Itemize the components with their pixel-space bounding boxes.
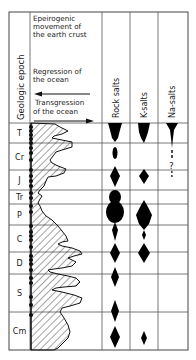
axis-dot bbox=[29, 276, 33, 280]
axis-dot bbox=[29, 268, 33, 272]
axis-dot bbox=[29, 196, 33, 200]
axis-dot bbox=[29, 141, 33, 145]
axis-dot bbox=[29, 204, 33, 208]
column-header-k-salts: K-salts bbox=[140, 92, 149, 118]
epoch-label-cm: Cm bbox=[13, 327, 27, 336]
axis-dot bbox=[29, 133, 33, 137]
axis-dot bbox=[29, 245, 33, 249]
epoch-label-tr: Tr bbox=[15, 193, 24, 202]
axis-dot bbox=[29, 168, 33, 172]
svg-text:Transgression: Transgression bbox=[34, 98, 84, 107]
svg-text:of the ocean: of the ocean bbox=[33, 107, 78, 116]
epoch-label-s: S bbox=[17, 289, 22, 298]
column-header-rock-salts: Rock salts bbox=[112, 78, 121, 118]
epoch-label-c: C bbox=[17, 235, 23, 244]
axis-dot bbox=[29, 179, 33, 183]
svg-text:the ocean: the ocean bbox=[33, 75, 69, 84]
axis-dot bbox=[29, 174, 33, 178]
axis-dot bbox=[29, 230, 33, 234]
axis-dot bbox=[29, 262, 33, 266]
na-salts-dashes bbox=[171, 171, 172, 177]
axis-dot bbox=[29, 191, 33, 195]
epoch-label-j: J bbox=[17, 176, 20, 185]
axis-dot bbox=[29, 281, 33, 285]
regression-arrow-icon bbox=[34, 92, 90, 97]
axis-dot bbox=[29, 125, 33, 129]
axis-dot bbox=[29, 158, 33, 162]
axis-dot bbox=[29, 210, 33, 214]
epeirogenic-curve bbox=[31, 123, 82, 350]
axis-dot bbox=[29, 224, 33, 228]
axis-dot bbox=[29, 146, 33, 150]
column-header-na-salts: Na-salts bbox=[168, 86, 177, 118]
movement-title: Epeirogenic movement of the earth crust bbox=[33, 14, 87, 39]
axis-dot bbox=[29, 238, 33, 242]
axis-dot bbox=[29, 151, 33, 155]
regression-label: Regression of the ocean bbox=[33, 67, 82, 84]
axis-dot bbox=[29, 184, 33, 188]
axis-dot bbox=[29, 313, 33, 317]
geologic-epoch-label: Geologic epoch bbox=[16, 54, 26, 120]
salt-deposits-diagram: Geologic epoch Epeirogenic movement of t… bbox=[0, 0, 196, 360]
na-salts-deposits bbox=[166, 123, 178, 158]
na-salts-uncertain-mark: ? bbox=[169, 161, 174, 171]
epoch-label-d: D bbox=[16, 259, 22, 268]
svg-text:the earth crust: the earth crust bbox=[33, 30, 87, 39]
epoch-label-t: T bbox=[16, 129, 22, 138]
transgression-label: Transgression of the ocean bbox=[33, 98, 84, 116]
axis-dot bbox=[29, 137, 33, 141]
axis-dot bbox=[29, 254, 33, 258]
axis-dot bbox=[29, 295, 33, 299]
axis-dot bbox=[29, 129, 33, 133]
axis-dot bbox=[29, 303, 33, 307]
axis-dot bbox=[29, 258, 33, 262]
axis-dot bbox=[29, 234, 33, 238]
rock-salts-deposits bbox=[106, 123, 124, 348]
epoch-label-p: P bbox=[17, 211, 22, 220]
epoch-labels: TCrJTrPCDSCm bbox=[13, 129, 27, 336]
epoch-label-cr: Cr bbox=[15, 153, 25, 162]
